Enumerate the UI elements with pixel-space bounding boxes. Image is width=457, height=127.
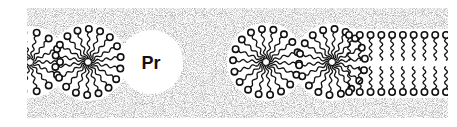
lipid-head <box>57 42 63 48</box>
lipid-head <box>346 89 352 95</box>
lipid-head <box>97 28 103 34</box>
lipid-head <box>86 26 92 32</box>
lipid-head <box>302 40 308 46</box>
lipid-head <box>338 91 344 97</box>
lipid-head <box>367 89 373 95</box>
lipid-head <box>299 73 305 79</box>
lipid-head <box>297 51 303 57</box>
lipid-head <box>331 26 337 32</box>
lipid-head <box>74 28 80 34</box>
lipid-head <box>357 32 363 38</box>
lipid-head <box>230 57 236 63</box>
lipid-head <box>46 82 52 88</box>
lipid-head <box>443 32 449 38</box>
lipid-head <box>389 32 395 38</box>
lipid-head <box>400 89 406 95</box>
lipid-head <box>361 67 367 73</box>
lipid-head <box>270 27 276 33</box>
lipid-head <box>0 46 6 52</box>
lipid-head <box>306 82 312 88</box>
lipid-head <box>296 62 302 68</box>
lipid-head <box>289 39 295 45</box>
lipid-head <box>232 46 238 52</box>
lipid-head <box>113 76 119 82</box>
lipid-head <box>287 81 293 87</box>
lipid-head <box>236 79 242 85</box>
lipid-head <box>84 92 90 98</box>
protein-label: Pr <box>141 53 160 74</box>
lipid-head <box>8 35 14 41</box>
lipid-head <box>117 54 123 60</box>
lipid-head <box>255 91 261 97</box>
lipid-head <box>310 32 316 38</box>
lipid-head <box>320 27 326 33</box>
lipid-head <box>267 92 273 98</box>
lipid-head <box>64 33 70 39</box>
lipid-diagram <box>0 0 457 127</box>
lipid-tail <box>13 41 28 59</box>
lipid-head <box>0 59 3 65</box>
lipid-head <box>326 92 332 98</box>
lipid-head <box>33 30 39 36</box>
lipid-head <box>259 26 265 32</box>
lipid-head <box>357 89 363 95</box>
lipid-head <box>421 32 427 38</box>
lipid-head <box>367 32 373 38</box>
lipid-head <box>346 32 352 38</box>
lipid-head <box>46 35 52 41</box>
lipid-head <box>73 90 79 96</box>
lipid-head <box>239 36 245 42</box>
lipid-head <box>432 89 438 95</box>
lipid-head <box>389 89 395 95</box>
lipid-head <box>410 89 416 95</box>
lipid-head <box>248 29 254 35</box>
lipid-head <box>378 89 384 95</box>
lipid-tail <box>6 63 27 74</box>
lipid-head <box>432 32 438 38</box>
lipid-head <box>8 82 14 88</box>
lipid-head <box>443 89 449 95</box>
lipid-head <box>281 31 287 37</box>
lipid-head <box>117 65 123 71</box>
lipid-head <box>421 89 427 95</box>
lipid-head <box>63 84 69 90</box>
lipid-tail <box>4 61 28 64</box>
lipid-head <box>315 89 321 95</box>
lipid-head <box>52 64 58 70</box>
lipid-head <box>378 32 384 38</box>
lipid-head <box>400 32 406 38</box>
lipid-tail <box>14 64 29 82</box>
lipid-head <box>410 32 416 38</box>
lipid-head <box>114 43 120 49</box>
lipid-head <box>20 30 26 36</box>
lipid-head <box>52 52 58 58</box>
lipid-head <box>95 90 101 96</box>
lipid-head <box>245 87 251 93</box>
lipid-tail <box>6 51 27 61</box>
lipid-head <box>33 88 39 94</box>
lipid-head <box>278 88 284 94</box>
lipid-head <box>105 85 111 91</box>
lipid-head <box>362 56 368 62</box>
lipid-head <box>56 75 62 81</box>
lipid-head <box>20 88 26 94</box>
lipid-head <box>0 72 6 78</box>
lipid-head <box>231 68 237 74</box>
lipid-head <box>107 34 113 40</box>
